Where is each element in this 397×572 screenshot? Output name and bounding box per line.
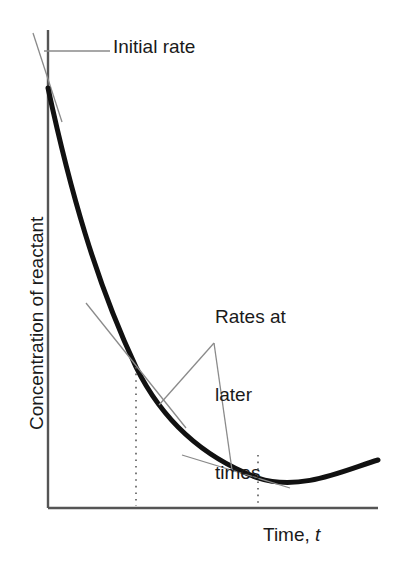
- later-rates-annotation: Rates at later times: [215, 252, 286, 538]
- x-axis-label-variable: t: [315, 524, 320, 545]
- later-rates-line-2: later: [215, 382, 286, 408]
- later-rates-line-1: Rates at: [215, 304, 286, 330]
- concentration-decay-curve: [48, 88, 378, 483]
- plot-area: [0, 0, 397, 572]
- y-axis-label: Concentration of reactant: [26, 217, 48, 430]
- later-rate-tangent-1: [86, 303, 186, 428]
- x-axis-label: Time, t: [263, 524, 320, 546]
- later-rates-line-3: times: [215, 460, 286, 486]
- rate-of-reaction-figure: Initial rate Rates at later times Time, …: [0, 0, 397, 572]
- initial-rate-annotation: Initial rate: [113, 36, 195, 58]
- x-axis-label-text: Time,: [263, 524, 315, 545]
- later-rates-leader-left: [159, 343, 214, 405]
